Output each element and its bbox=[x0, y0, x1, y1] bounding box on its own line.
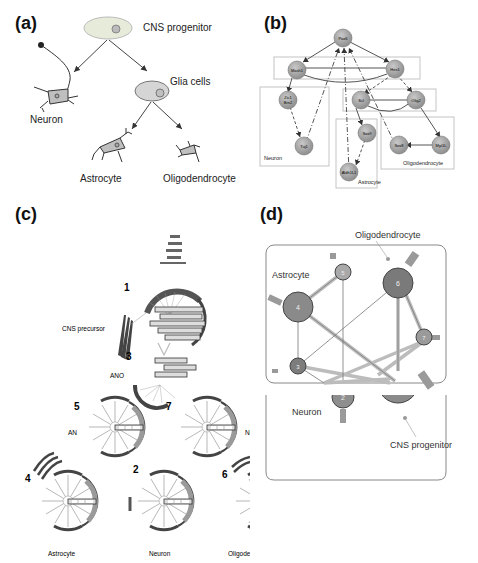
group-label-oligodendrocyte: Oligodendrocyte bbox=[403, 160, 443, 166]
state-7-no: 7 NO bbox=[166, 397, 250, 456]
svg-text:Sox8: Sox8 bbox=[394, 143, 404, 148]
panel-d: (d) bbox=[250, 195, 478, 395]
neuron-label: Neuron bbox=[30, 114, 63, 125]
gene-node-sox9: Sox9 bbox=[358, 124, 376, 142]
gene-node-aldh1l1: Aldh1L1 bbox=[340, 163, 358, 181]
svg-text:6: 6 bbox=[222, 469, 228, 480]
group-label-astrocyte: Astrocyte bbox=[358, 179, 381, 185]
gene-node-sox8: Sox8 bbox=[390, 136, 408, 154]
oligodendrocyte-cell bbox=[176, 141, 200, 162]
gene-node-olig2: Olig2 bbox=[407, 91, 425, 109]
state-node-6: 6 bbox=[383, 268, 413, 298]
gene-node-myt1l: Myt1L bbox=[432, 136, 450, 154]
panel-c-label: (c) bbox=[15, 204, 37, 225]
gene-node-scl: Scl bbox=[352, 91, 370, 109]
svg-text:3: 3 bbox=[126, 351, 132, 362]
panel-b-label: (b) bbox=[264, 13, 287, 34]
svg-text:Neuron: Neuron bbox=[149, 550, 171, 557]
svg-text:Pax6: Pax6 bbox=[338, 36, 348, 41]
state-2-neuron: 2 Neuron bbox=[130, 464, 193, 557]
state-6-oligodendrocyte: 6 Oligodendrocyte bbox=[222, 457, 250, 558]
gene-node-tuj1: Tuj1 bbox=[295, 137, 313, 155]
state-node-5: 5 bbox=[335, 264, 351, 280]
svg-text:4: 4 bbox=[296, 304, 300, 311]
attractor-landscape: 1 CNS precursor 3 ANO 5 AN bbox=[0, 195, 250, 563]
svg-text:Aldh1L1: Aldh1L1 bbox=[342, 170, 357, 175]
state-node-1: 1 bbox=[378, 395, 418, 403]
panel-b: (b) bbox=[240, 0, 478, 195]
svg-text:ANO: ANO bbox=[110, 372, 124, 379]
panel-d-lower: 1 2 Neuron CNS progenitor bbox=[250, 395, 478, 515]
glia-label: Glia cells bbox=[170, 76, 211, 87]
state-4-astrocyte: 4 Astrocyte bbox=[25, 453, 97, 558]
svg-text:Brn2: Brn2 bbox=[284, 100, 293, 105]
svg-text:CNS precursor: CNS precursor bbox=[62, 325, 106, 333]
neuron-cell bbox=[34, 42, 78, 112]
astrocyte-annotation: Astrocyte bbox=[272, 270, 310, 280]
progenitor-label: CNS progenitor bbox=[143, 22, 213, 33]
gene-node-zic1-brn2: Zic1Brn2 bbox=[279, 91, 297, 109]
svg-text:1: 1 bbox=[124, 282, 130, 293]
svg-text:AN: AN bbox=[68, 429, 77, 436]
astrocyte-label: Astrocyte bbox=[80, 173, 122, 184]
svg-text:4: 4 bbox=[25, 473, 31, 484]
svg-text:Hes1: Hes1 bbox=[390, 67, 400, 72]
svg-text:2: 2 bbox=[341, 395, 345, 401]
state-5-an: 5 AN bbox=[68, 397, 144, 456]
oligodendrocyte-label: Oligodendrocyte bbox=[163, 173, 236, 184]
svg-text:Tuj1: Tuj1 bbox=[300, 144, 308, 149]
neuron-annotation: Neuron bbox=[292, 407, 322, 417]
state-transition-network-lower: 1 2 Neuron CNS progenitor bbox=[250, 395, 478, 515]
astrocyte-cell bbox=[92, 128, 132, 162]
gene-node-mash1: Mash1 bbox=[288, 61, 306, 79]
state-node-7: 7 bbox=[416, 329, 432, 345]
progenitor-annotation: CNS progenitor bbox=[390, 440, 452, 450]
svg-text:Oligodendrocyte: Oligodendrocyte bbox=[228, 550, 250, 558]
oligodendrocyte-annotation: Oligodendrocyte bbox=[355, 230, 421, 240]
state-1-cns-precursor: 1 CNS precursor bbox=[62, 235, 205, 360]
svg-text:Mash1: Mash1 bbox=[291, 68, 304, 73]
state-transition-network: 4 5 6 7 3 Oligodendrocyte Astrocyte bbox=[250, 195, 478, 395]
panel-d-label: (d) bbox=[260, 204, 283, 225]
svg-text:6: 6 bbox=[396, 280, 400, 287]
state-node-2: 2 bbox=[332, 395, 354, 408]
state-node-3: 3 bbox=[290, 358, 306, 374]
gene-node-hes1: Hes1 bbox=[386, 60, 404, 78]
svg-text:7: 7 bbox=[166, 401, 172, 412]
svg-text:2: 2 bbox=[133, 464, 139, 475]
svg-text:Sox9: Sox9 bbox=[362, 131, 372, 136]
state-node-4: 4 bbox=[283, 292, 313, 322]
gene-node-pax6: Pax6 bbox=[334, 29, 352, 47]
svg-text:Myt1L: Myt1L bbox=[436, 143, 448, 148]
svg-text:Astrocyte: Astrocyte bbox=[48, 550, 75, 558]
panel-a: (a) CNS progenitor Neuron Gli bbox=[0, 0, 245, 190]
panel-a-label: (a) bbox=[15, 13, 37, 34]
svg-text:Olig2: Olig2 bbox=[411, 98, 421, 103]
glia-cell bbox=[135, 81, 169, 101]
progenitor-cell bbox=[84, 17, 132, 39]
svg-text:5: 5 bbox=[74, 401, 80, 412]
svg-text:Scl: Scl bbox=[358, 98, 364, 103]
group-label-neuron: Neuron bbox=[264, 155, 282, 161]
panel-c: (c) bbox=[0, 195, 250, 563]
